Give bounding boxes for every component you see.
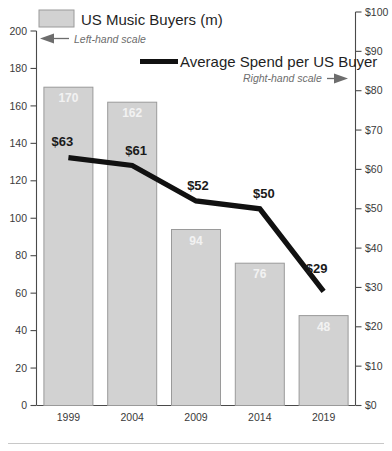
- left-tick-label: 180: [9, 62, 27, 74]
- bar-2009: [172, 230, 221, 406]
- right-tick-label: $70: [365, 124, 383, 136]
- left-axis-ticks: [31, 31, 37, 406]
- line-value-label-2014: $50: [253, 186, 275, 201]
- left-tick-label: 80: [15, 249, 27, 261]
- right-tick-label: $40: [365, 242, 383, 254]
- right-tick-label: $0: [365, 399, 377, 411]
- left-tick-label: 60: [15, 287, 27, 299]
- chart-container: 020406080100120140160180200 $0$10$20$30$…: [0, 0, 392, 451]
- legend-line: Average Spend per US Buyer Right-hand sc…: [140, 53, 377, 84]
- chart-canvas: 020406080100120140160180200 $0$10$20$30$…: [0, 0, 392, 451]
- line-value-label-1999: $63: [52, 134, 74, 149]
- legend-bars-scale-note: Left-hand scale: [74, 33, 146, 45]
- right-tick-label: $60: [365, 163, 383, 175]
- line-value-label-2004: $61: [125, 143, 147, 158]
- legend-bars: US Music Buyers (m) Left-hand scale: [39, 10, 223, 45]
- left-axis-tick-labels: 020406080100120140160180200: [9, 25, 27, 412]
- bar-value-label-2009: 94: [189, 234, 203, 248]
- right-tick-label: $20: [365, 320, 383, 332]
- line-value-label-2009: $52: [187, 178, 209, 193]
- category-label-1999: 1999: [57, 411, 81, 423]
- bar-value-label-2004: 162: [122, 106, 142, 120]
- right-tick-label: $80: [365, 84, 383, 96]
- right-tick-label: $50: [365, 202, 383, 214]
- right-arrow-icon: [327, 74, 348, 84]
- category-label-2014: 2014: [248, 411, 272, 423]
- left-tick-label: 0: [21, 399, 27, 411]
- legend-bar-swatch-icon: [39, 10, 74, 27]
- category-label-2004: 2004: [121, 411, 145, 423]
- left-tick-label: 100: [9, 212, 27, 224]
- left-tick-label: 120: [9, 174, 27, 186]
- left-tick-label: 200: [9, 25, 27, 37]
- bar-value-label-2019: 48: [317, 320, 331, 334]
- line-value-label-2019: $29: [306, 261, 328, 276]
- category-label-2009: 2009: [184, 411, 208, 423]
- left-axis: 020406080100120140160180200: [9, 25, 36, 412]
- right-tick-label: $100: [365, 6, 389, 18]
- bar-value-label-1999: 170: [58, 91, 78, 105]
- left-arrow-icon: [40, 34, 69, 44]
- legend-line-scale-note: Right-hand scale: [243, 72, 322, 84]
- left-tick-label: 160: [9, 100, 27, 112]
- bar-value-label-2014: 76: [253, 267, 267, 281]
- left-tick-label: 140: [9, 137, 27, 149]
- legend-line-label: Average Spend per US Buyer: [180, 53, 377, 70]
- right-tick-label: $10: [365, 360, 383, 372]
- right-tick-label: $30: [365, 281, 383, 293]
- left-tick-label: 20: [15, 362, 27, 374]
- x-axis-category-labels: 19992004200920142019: [57, 411, 336, 423]
- legend-bars-label: US Music Buyers (m): [81, 11, 223, 28]
- left-tick-label: 40: [15, 324, 27, 336]
- bar-2014: [235, 263, 284, 405]
- category-label-2019: 2019: [312, 411, 336, 423]
- right-axis-ticks: [356, 12, 362, 406]
